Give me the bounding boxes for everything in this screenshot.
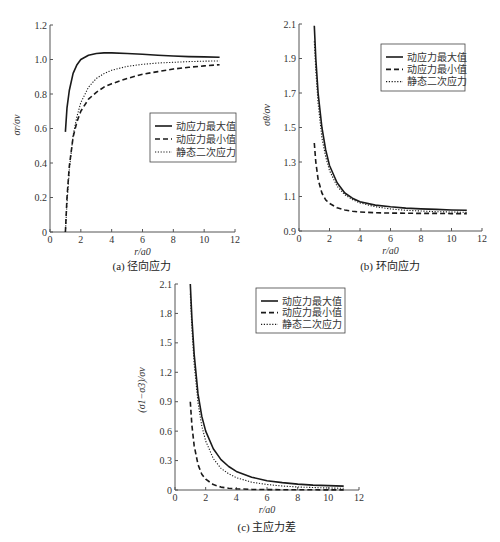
legend-label: 动应力最大值 (282, 295, 342, 307)
y-tick-label: 0.4 (35, 158, 48, 169)
legend-label: 动应力最大值 (407, 51, 467, 63)
x-tick-label: 10 (323, 492, 333, 503)
y-tick-label: 1.2 (35, 20, 48, 31)
y-tick-label: 0 (42, 227, 47, 238)
x-tick-label: 0 (48, 234, 53, 245)
x-axis-label: r/a0 (134, 246, 151, 257)
y-tick-label: 1.5 (284, 122, 297, 133)
y-tick-label: 1.1 (284, 191, 297, 202)
y-tick-label: 1.3 (284, 157, 297, 168)
x-tick-label: 2 (203, 492, 208, 503)
x-tick-label: 4 (358, 233, 363, 244)
x-tick-label: 10 (199, 234, 209, 245)
y-tick-label: 1.8 (160, 308, 173, 319)
x-tick-label: 0 (297, 233, 302, 244)
x-tick-label: 4 (234, 492, 239, 503)
chart-b-plot: 0246810120.91.11.31.51.71.92.1r/a0σθ/σv动… (250, 0, 500, 270)
x-tick-label: 12 (230, 234, 240, 245)
legend-label: 动应力最小值 (407, 63, 467, 75)
legend-label: 动应力最小值 (176, 133, 236, 145)
x-axis-label: r/a0 (259, 504, 276, 515)
legend: 动应力最大值动应力最小值静态二次应力 (256, 288, 345, 333)
y-tick-label: 0 (167, 485, 172, 496)
y-tick-label: 0.2 (35, 192, 48, 203)
x-axis-label: r/a0 (382, 245, 399, 256)
y-axis-label: (σ1−σ3)/σv (136, 367, 148, 413)
legend-label: 动应力最小值 (282, 306, 342, 318)
chart-c-caption: (c) 主应力差 (217, 518, 317, 534)
series-line-dashed (314, 143, 467, 214)
y-axis-label: σr/σv (11, 114, 22, 136)
x-tick-label: 6 (388, 233, 393, 244)
y-tick-label: 0.3 (160, 455, 173, 466)
x-tick-label: 8 (419, 233, 424, 244)
legend-label: 静态二次应力 (282, 318, 342, 330)
y-tick-label: 2.1 (160, 279, 173, 290)
legend-label: 静态二次应力 (176, 146, 236, 158)
chart-c-plot: 02468101200.30.60.91.21.51.82.1r/a0(σ1−σ… (125, 270, 385, 530)
x-tick-label: 12 (477, 233, 487, 244)
x-tick-label: 2 (327, 233, 332, 244)
legend-label: 静态二次应力 (407, 75, 467, 87)
y-tick-label: 1.9 (284, 53, 297, 64)
y-tick-label: 0.6 (35, 123, 48, 134)
chart-panel-c: 02468101200.30.60.91.21.51.82.1r/a0(σ1−σ… (125, 270, 385, 530)
chart-panel-a: 02468101200.20.40.60.81.01.2r/a0σr/σv动应力… (0, 0, 250, 270)
y-tick-label: 1.0 (35, 54, 48, 65)
x-tick-label: 6 (140, 234, 145, 245)
x-tick-label: 6 (265, 492, 270, 503)
legend-label: 动应力最大值 (176, 120, 236, 132)
chart-a-plot: 02468101200.20.40.60.81.01.2r/a0σr/σv动应力… (0, 0, 250, 270)
legend: 动应力最大值动应力最小值静态二次应力 (381, 44, 467, 91)
legend: 动应力最大值动应力最小值静态二次应力 (150, 113, 236, 162)
chart-panel-b: 0246810120.91.11.31.51.71.92.1r/a0σθ/σv动… (250, 0, 500, 270)
y-tick-label: 1.5 (160, 337, 173, 348)
x-tick-label: 2 (78, 234, 83, 245)
x-tick-label: 12 (354, 492, 364, 503)
y-tick-label: 0.9 (160, 396, 173, 407)
series-line-dashed (190, 402, 343, 490)
x-tick-label: 10 (447, 233, 457, 244)
y-tick-label: 1.7 (284, 88, 297, 99)
x-tick-label: 0 (173, 492, 178, 503)
x-tick-label: 8 (295, 492, 300, 503)
y-axis-label: σθ/σv (261, 103, 272, 126)
y-tick-label: 0.8 (35, 89, 48, 100)
y-tick-label: 1.2 (160, 367, 173, 378)
y-tick-label: 0.6 (160, 426, 173, 437)
x-tick-label: 8 (171, 234, 176, 245)
y-tick-label: 0.9 (284, 226, 297, 237)
y-tick-label: 2.1 (284, 19, 297, 30)
x-tick-label: 4 (109, 234, 114, 245)
